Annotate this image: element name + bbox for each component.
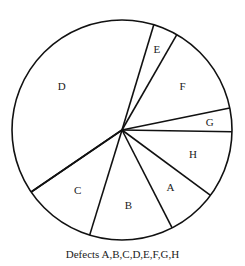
slice-label-b: B — [125, 199, 132, 211]
slice-label-e: E — [154, 43, 161, 55]
slice-label-f: F — [180, 80, 186, 92]
chart-caption: Defects A,B,C,D,E,F,G,H — [0, 248, 245, 260]
pie-chart: EFGHABCD — [0, 0, 245, 245]
slice-label-a: A — [166, 181, 174, 193]
slice-label-d: D — [58, 80, 66, 92]
slice-label-c: C — [74, 184, 81, 196]
slice-label-h: H — [189, 148, 197, 160]
slice-label-g: G — [206, 116, 214, 128]
